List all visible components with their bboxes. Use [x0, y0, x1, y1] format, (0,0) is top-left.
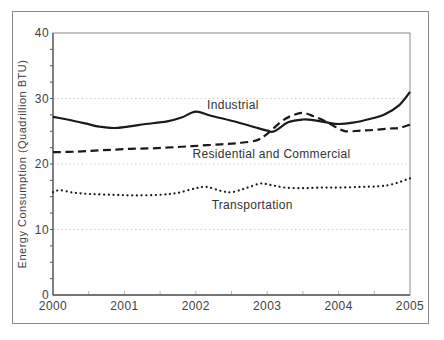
series-line-transportation	[53, 178, 410, 195]
series-line-residential-and-commercial	[53, 113, 410, 152]
series-line-industrial	[53, 92, 410, 132]
energy-consumption-chart-figure: Energy Consumption (Quadrillion BTU) 010…	[0, 0, 444, 340]
chart-canvas	[0, 0, 444, 340]
